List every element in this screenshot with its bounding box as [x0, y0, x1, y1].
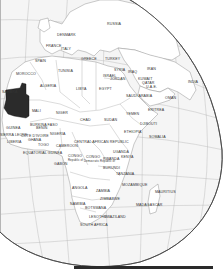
label-greece: GREECE — [81, 57, 97, 61]
label-iraq: IRAQ — [128, 70, 137, 74]
scale-bar — [74, 266, 213, 269]
label-mauritius: MAURITIUS — [155, 190, 176, 194]
label-algeria: ALGERIA — [40, 84, 56, 88]
label-egypt: EGYPT — [99, 87, 112, 91]
label-jordan: JORDAN — [110, 77, 125, 81]
label-niger: NIGER — [56, 111, 68, 115]
label-gabon: GABON — [54, 162, 67, 166]
label-uganda: UGANDA — [113, 150, 129, 154]
label-congo-sub: Republic of — [68, 158, 83, 162]
label-swaziland: SWAZILAND — [104, 215, 126, 219]
label-somalia: SOMALIA — [149, 135, 166, 139]
label-liberia: LIBERIA — [7, 140, 21, 144]
label-morocco: MOROCCO — [16, 72, 36, 76]
label-spain: SPAIN — [35, 59, 46, 63]
label-madagascar: MADAGASCAR — [136, 203, 163, 207]
label-eritrea: ERITREA — [148, 108, 164, 112]
label-turkey: TURKEY — [105, 57, 120, 61]
label-equatorial-guinea: EQUATORIAL GUINEA — [23, 151, 62, 155]
label-sudan: SUDAN — [104, 118, 117, 122]
label-south-africa: SOUTH AFRICA — [80, 223, 108, 227]
label-guinea: GUINEA — [6, 126, 20, 130]
label-denmark: DENMARK — [57, 33, 76, 37]
label-russia: RUSSIA — [107, 22, 121, 26]
label-chad: CHAD — [80, 118, 91, 122]
label-ghana: GHANA — [28, 138, 41, 142]
label-benin: BENIN — [36, 126, 47, 130]
label-angola: ANGOLA — [72, 186, 88, 190]
label-botswana: BOTSWANA — [85, 206, 106, 210]
label-oman: OMAN — [165, 96, 176, 100]
label-togo: TOGO — [38, 143, 49, 147]
label-zimbabwe: ZIMBABWE — [100, 197, 120, 201]
label-burundi: BURUNDI — [103, 166, 120, 170]
label-iran: IRAN — [147, 67, 156, 71]
label-yemen: YEMEN — [126, 112, 139, 116]
label-rwanda: RWANDA — [103, 157, 119, 161]
label-tunisia: TUNISIA — [58, 69, 73, 73]
label-kenya: KENYA — [121, 155, 133, 159]
label-car: CENTRAL AFRICAN REPUBLIC — [74, 140, 129, 144]
label-france: FRANCE — [46, 44, 61, 48]
label-italy: ITALY — [61, 47, 71, 51]
label-djibouti: DJIBOUTI — [140, 122, 157, 126]
label-tanzania: TANZANIA — [116, 172, 134, 176]
label-cameroon: CAMEROON — [56, 144, 78, 148]
label-mozambique: MOZAMBIQUE — [122, 183, 148, 187]
label-syria: SYRIA — [114, 68, 125, 72]
label-namibia: NAMIBIA — [70, 202, 85, 206]
label-zambia: ZAMBIA — [96, 189, 110, 193]
label-libya: LIBYA — [76, 87, 86, 91]
label-uae: U.A.E. — [146, 85, 157, 89]
label-ethiopia: ETHIOPIA — [124, 130, 142, 134]
label-saudi-arabia: SAUDI ARABIA — [126, 94, 152, 98]
label-mali: MALI — [32, 109, 41, 113]
label-india: INDIA — [188, 80, 198, 84]
label-nigeria: NIGERIA — [50, 132, 65, 136]
label-sahara: SAHARA — [2, 90, 17, 94]
